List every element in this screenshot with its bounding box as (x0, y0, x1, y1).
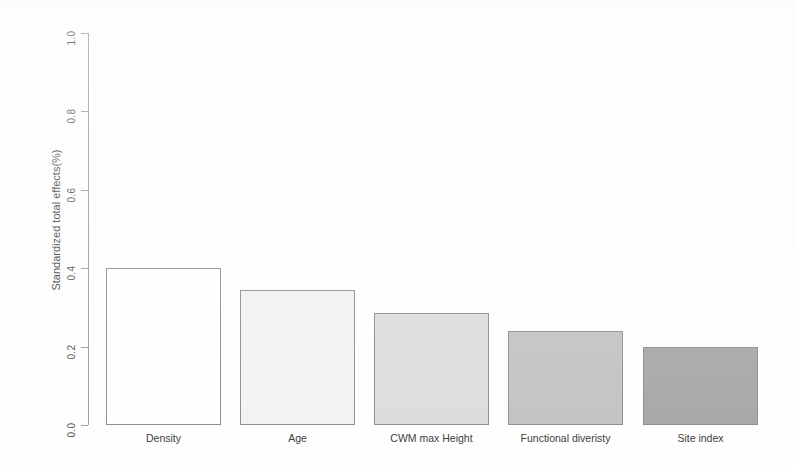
y-tick-label-0.0: 0.0 (66, 414, 77, 438)
bar-site-index[interactable] (643, 347, 758, 425)
y-axis-line (88, 33, 89, 425)
x-label-cwm-max-height: CWM max Height (374, 432, 489, 444)
y-tick-mark-4 (81, 268, 88, 269)
x-label-site-index: Site index (643, 432, 758, 444)
x-label-age: Age (240, 432, 355, 444)
y-tick-label-1.0: 1.0 (66, 22, 77, 46)
y-tick-mark-5 (81, 347, 88, 348)
y-tick-mark-2 (81, 111, 88, 112)
y-tick-label-0.8: 0.8 (66, 100, 77, 124)
y-tick-label-0.2: 0.2 (66, 336, 77, 360)
y-tick-label-0.4: 0.4 (66, 257, 77, 281)
y-tick-mark-1 (81, 33, 88, 34)
bar-density[interactable] (106, 268, 221, 425)
y-tick-mark-3 (81, 190, 88, 191)
y-axis-title: Standardized total effects(%) (50, 100, 62, 340)
bar-cwm-max-height[interactable] (374, 313, 489, 425)
bar-age[interactable] (240, 290, 355, 425)
bar-functional-diveristy[interactable] (508, 331, 623, 425)
y-tick-mark-6 (81, 425, 88, 426)
x-label-functional-diveristy: Functional diveristy (500, 432, 631, 444)
bar-chart-figure: 1.0 0.8 0.6 0.4 0.2 0.0 Standardized tot… (0, 0, 796, 466)
y-tick-label-0.6: 0.6 (66, 179, 77, 203)
x-label-density: Density (106, 432, 221, 444)
